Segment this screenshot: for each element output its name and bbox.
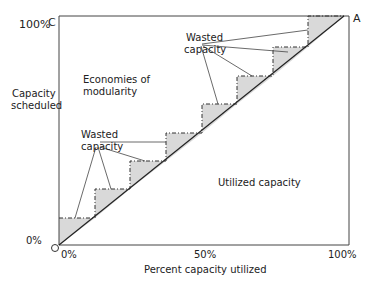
x-axis-title: Percent capacity utilized — [144, 264, 267, 276]
wasted-lower-line2: capacity — [81, 141, 123, 153]
x-tick-0: 0% — [61, 249, 77, 261]
utilized-capacity-label: Utilized capacity — [218, 177, 301, 189]
y-axis-title-line1: Capacity — [12, 88, 56, 100]
y-axis-title-line2: scheduled — [11, 100, 62, 112]
y-tick-100: 100% — [19, 19, 50, 31]
x-tick-100: 100% — [328, 249, 357, 261]
y-tick-0: 0% — [26, 235, 42, 247]
economies-label-line1: Economies of — [83, 74, 150, 86]
economies-label-line2: modularity — [83, 86, 137, 98]
wasted-lower-line1: Wasted — [81, 129, 118, 141]
point-c-label: C — [48, 17, 56, 29]
wasted-upper-line1: Wasted — [186, 32, 223, 44]
wasted-upper-line2: capacity — [184, 44, 226, 56]
lower-leader-lines — [75, 142, 166, 218]
x-tick-50: 50% — [194, 249, 216, 261]
origin-marker — [52, 245, 59, 252]
point-a-label: A — [353, 13, 361, 25]
